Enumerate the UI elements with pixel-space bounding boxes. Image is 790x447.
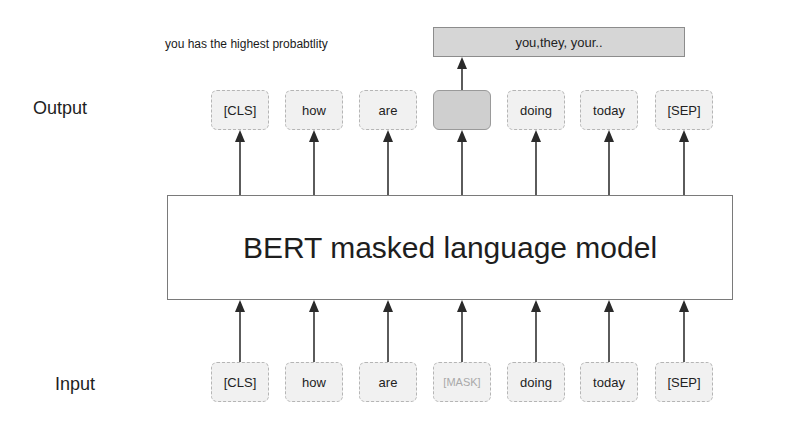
input-row-label: Input <box>55 374 95 395</box>
output-row-label: Output <box>33 98 87 119</box>
masked-to-result-arrow <box>457 57 467 90</box>
token-text: are <box>379 103 398 118</box>
output-token-how: how <box>285 90 343 130</box>
input-token-how: how <box>285 362 343 402</box>
input-token-are: are <box>359 362 417 402</box>
model-to-output-arrows <box>240 136 684 195</box>
token-text: doing <box>520 375 552 390</box>
output-token-are: are <box>359 90 417 130</box>
bert-model-title: BERT masked language model <box>243 231 657 265</box>
bert-model-box: BERT masked language model <box>167 195 733 300</box>
token-text: [CLS] <box>224 103 257 118</box>
output-token-doing: doing <box>507 90 565 130</box>
input-token-sep: [SEP] <box>655 362 713 402</box>
token-text: [SEP] <box>667 103 700 118</box>
prediction-hint: you has the highest probabtlity <box>165 37 328 51</box>
input-token-cls: [CLS] <box>211 362 269 402</box>
output-token-today: today <box>580 90 638 130</box>
output-token-sep: [SEP] <box>655 90 713 130</box>
prediction-result-box: you,they, your.. <box>433 27 685 57</box>
output-token-masked <box>433 90 491 130</box>
token-text: today <box>593 103 625 118</box>
token-text: [CLS] <box>224 375 257 390</box>
token-text: are <box>379 375 398 390</box>
prediction-result-text: you,they, your.. <box>515 35 602 50</box>
output-token-cls: [CLS] <box>211 90 269 130</box>
token-text: today <box>593 375 625 390</box>
token-text: [SEP] <box>667 375 700 390</box>
token-text: how <box>302 103 326 118</box>
input-token-mask: [MASK] <box>433 362 491 402</box>
token-text: [MASK] <box>443 376 480 388</box>
token-text: how <box>302 375 326 390</box>
input-token-doing: doing <box>507 362 565 402</box>
token-text: doing <box>520 103 552 118</box>
input-token-today: today <box>580 362 638 402</box>
